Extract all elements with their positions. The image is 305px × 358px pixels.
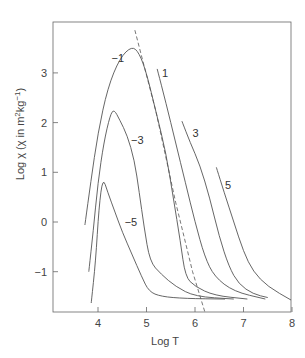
y-tick-label: 0 <box>41 216 47 228</box>
curve-label: 1 <box>162 67 168 79</box>
curve-label: −5 <box>125 216 138 228</box>
chart-canvas: 45678 −10123 −5−3−1135 Log T Log χ (χ in… <box>0 0 305 358</box>
x-axis-ticks: 45678 <box>95 307 295 329</box>
y-tick-label: 1 <box>41 166 47 178</box>
y-tick-label: 3 <box>41 67 47 79</box>
y-axis-ticks: −10123 <box>34 67 58 278</box>
y-tick-label: −1 <box>34 266 47 278</box>
curve-minus5 <box>91 182 225 303</box>
x-axis-title: Log T <box>151 335 179 347</box>
curve-3 <box>182 121 268 297</box>
x-tick-label: 8 <box>289 317 295 329</box>
dashed-envelope-line <box>135 30 205 311</box>
curve-label: −1 <box>112 52 125 64</box>
curve-label: 3 <box>193 127 199 139</box>
x-tick-label: 7 <box>240 317 246 329</box>
y-axis-title: Log χ (χ in m2kg−1) <box>13 88 26 180</box>
curve-1 <box>157 69 265 299</box>
curve-label: 5 <box>225 179 231 191</box>
curves <box>85 48 291 303</box>
curve-labels: −5−3−1135 <box>112 52 232 228</box>
x-tick-label: 4 <box>95 317 101 329</box>
y-tick-label: 2 <box>41 117 47 129</box>
x-tick-label: 6 <box>192 317 198 329</box>
x-tick-label: 5 <box>143 317 149 329</box>
curve-label: −3 <box>131 134 144 146</box>
curve-minus1 <box>85 48 247 299</box>
